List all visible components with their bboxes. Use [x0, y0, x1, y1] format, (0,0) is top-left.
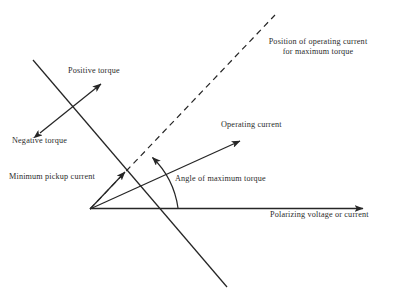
torque-polarity-double-arrow	[40, 84, 101, 133]
phasor-diagram: Position of operating current for maximu…	[0, 0, 395, 301]
label-minimum-pickup-current: Minimum pickup current	[9, 172, 95, 182]
label-operating-current: Operating current	[221, 120, 282, 130]
label-position-of-operating-current: Position of operating current for maximu…	[252, 37, 384, 58]
label-position-line-2: for maximum torque	[283, 47, 354, 56]
label-negative-torque: Negative torque	[12, 136, 67, 146]
label-positive-torque: Positive torque	[68, 66, 120, 76]
label-angle-of-maximum-torque: Angle of maximum torque	[175, 174, 266, 184]
label-polarizing-voltage-or-current: Polarizing voltage or current	[270, 210, 369, 220]
label-position-line-1: Position of operating current	[269, 37, 368, 46]
minimum-pickup-current-arrow	[90, 172, 125, 209]
